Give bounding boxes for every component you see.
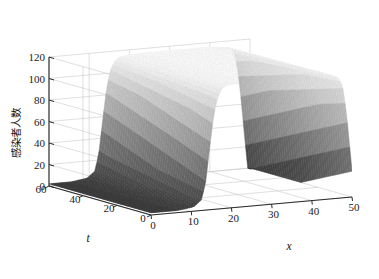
tick-label: 20 [34, 159, 46, 171]
tick-label: 20 [228, 212, 240, 224]
tick-label: 80 [34, 94, 46, 106]
tick-label: 20 [104, 202, 116, 214]
x-axis-title: x [285, 240, 292, 252]
tick-label: 40 [308, 205, 320, 217]
z-axis-title-group: 感染者人数 [10, 107, 22, 158]
tick-label: 40 [34, 137, 46, 149]
tick-label: 0 [140, 212, 146, 224]
tick-label: 40 [70, 193, 82, 205]
tick-label: 0 [40, 180, 46, 192]
surface-plot-figure: 010203040500204060020406080100120 感染者人数 … [0, 0, 379, 279]
tick-label: 50 [349, 201, 361, 213]
tick-label: 30 [268, 208, 280, 220]
tick-label: 100 [29, 73, 46, 85]
z-axis-title: 感染者人数 [10, 107, 22, 158]
tick-label: 10 [188, 215, 200, 227]
tick-label: 60 [34, 116, 46, 128]
tick-label: 0 [150, 219, 156, 231]
tick-label: 120 [29, 51, 46, 63]
plot-canvas: 010203040500204060020406080100120 感染者人数 … [0, 0, 379, 279]
